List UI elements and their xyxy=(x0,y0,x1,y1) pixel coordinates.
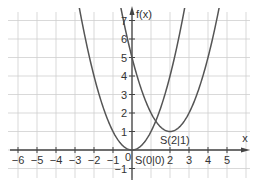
curve-g-shifted xyxy=(0,0,254,132)
x-tick-label: 3 xyxy=(186,154,192,166)
x-tick-label: −6 xyxy=(12,154,25,166)
x-tick-label: −4 xyxy=(50,154,63,166)
y-tick-label: 5 xyxy=(121,52,127,64)
y-tick-label: 2 xyxy=(121,107,127,119)
y-axis-label: f(x) xyxy=(136,8,152,20)
y-axis-arrow-icon xyxy=(130,6,135,15)
y-tick-label: 4 xyxy=(121,70,127,82)
y-tick-label: 1 xyxy=(121,126,127,138)
curves xyxy=(0,0,254,150)
vertex-label-shifted: S(2|1) xyxy=(160,134,190,146)
x-tick-label: 2 xyxy=(167,154,173,166)
y-tick-label: 6 xyxy=(121,33,127,45)
x-tick-label: 5 xyxy=(224,154,230,166)
y-tick-label: −1 xyxy=(114,163,127,175)
y-tick-label: 7 xyxy=(121,15,127,27)
x-tick-label: −3 xyxy=(69,154,82,166)
x-tick-label: 4 xyxy=(205,154,211,166)
x-tick-label: 0 xyxy=(125,151,131,163)
x-axis-label: x xyxy=(242,132,248,144)
parabola-chart: −6−5−4−3−2−102345−11234567xf(x) S(0|0)S(… xyxy=(0,0,254,184)
x-axis-arrow-icon xyxy=(241,148,250,153)
x-tick-label: −2 xyxy=(88,154,101,166)
vertex-label-origin: S(0|0) xyxy=(135,154,165,166)
chart-canvas: −6−5−4−3−2−102345−11234567xf(x) S(0|0)S(… xyxy=(0,0,254,184)
y-tick-label: 3 xyxy=(121,89,127,101)
x-tick-label: −5 xyxy=(31,154,44,166)
